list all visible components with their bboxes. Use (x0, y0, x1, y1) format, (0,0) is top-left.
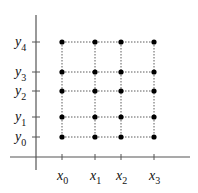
grid-node (92, 114, 97, 119)
grid-node (151, 114, 156, 119)
grid-node (118, 39, 123, 44)
x-tick-label: x3 (148, 168, 160, 186)
y-tick-label: y1 (13, 109, 26, 128)
y-tick-label: y0 (13, 129, 26, 148)
grid-node (118, 88, 123, 93)
dashed-grid (62, 42, 154, 137)
x-tick-label: x0 (56, 168, 68, 186)
grid-node (59, 134, 64, 139)
grid-node (92, 134, 97, 139)
grid-node (151, 69, 156, 74)
y-tick-label: y4 (13, 34, 26, 53)
x-tick-label: x2 (115, 168, 127, 186)
grid-node (59, 88, 64, 93)
grid-node (151, 134, 156, 139)
grid-node (59, 39, 64, 44)
y-tick-label: y3 (13, 64, 26, 83)
grid-node (151, 88, 156, 93)
grid-diagram: x0x1x2x3 y0y1y2y3y4 (0, 0, 198, 193)
y-axis-labels: y0y1y2y3y4 (13, 34, 26, 148)
axes (10, 15, 190, 170)
grid-node (59, 69, 64, 74)
grid-node (92, 69, 97, 74)
grid-node (118, 69, 123, 74)
grid-node (92, 88, 97, 93)
y-tick-label: y2 (13, 83, 26, 102)
grid-node (151, 39, 156, 44)
grid-node (59, 114, 64, 119)
grid-nodes (59, 39, 156, 139)
grid-node (92, 39, 97, 44)
grid-node (118, 134, 123, 139)
grid-node (118, 114, 123, 119)
x-axis-labels: x0x1x2x3 (56, 168, 160, 186)
x-tick-label: x1 (89, 168, 101, 186)
